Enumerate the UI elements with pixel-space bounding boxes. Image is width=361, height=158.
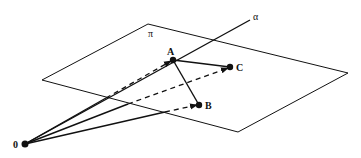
point-b [196,102,202,108]
vector-oa-solid [25,98,106,144]
plane-pi [42,24,348,132]
vector-plane-diagram: π α 0 A C B [0,0,361,158]
vector-oc-dashed [128,68,228,104]
label-a: A [167,46,175,57]
label-b: B [205,100,212,111]
point-a [170,57,176,63]
label-c: C [236,62,243,73]
point-origin [22,141,29,148]
line-label: α [253,11,259,22]
plane-label: π [148,28,153,39]
vector-oa-dashed [106,61,171,98]
point-c [227,64,233,70]
segment-ab [173,60,199,105]
segment-ac [173,60,230,67]
origin-label: 0 [13,139,18,150]
vector-ob-dashed [165,105,197,112]
